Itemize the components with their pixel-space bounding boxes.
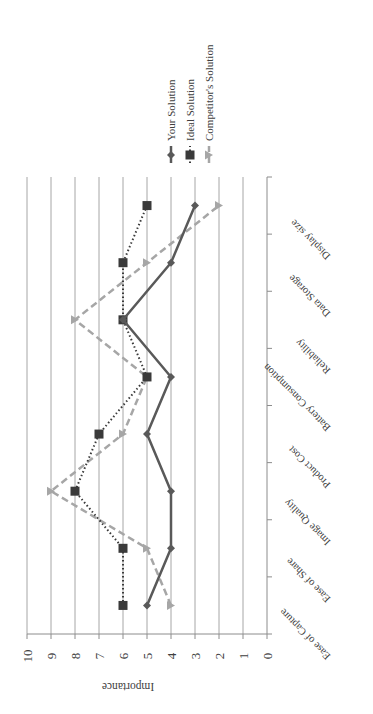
- category-label: Ease of Capture: [277, 606, 332, 661]
- diamond-marker: [143, 430, 151, 438]
- legend-label: Ideal Solution: [184, 78, 196, 141]
- axis-labels: 012345678910Ease of CaptureEase of Share…: [20, 217, 333, 693]
- category-label: Data Storage: [286, 272, 333, 319]
- series-line: [51, 206, 219, 606]
- value-tick-label: 10: [20, 650, 35, 663]
- series-your-solution: [119, 202, 199, 610]
- value-tick-label: 0: [260, 653, 275, 660]
- legend-item: Competitor's Solution: [203, 44, 215, 163]
- series-competitor-s-solution: [47, 201, 223, 610]
- square-marker: [71, 487, 80, 496]
- diamond-marker: [167, 487, 175, 495]
- value-tick-label: 1: [236, 653, 251, 660]
- value-tick-label: 5: [140, 653, 155, 660]
- category-label: Image Quality: [281, 497, 332, 548]
- series-layer: [47, 201, 223, 610]
- category-label: Display size: [288, 217, 333, 262]
- category-label: Product Cost: [286, 444, 332, 490]
- legend-label: Competitor's Solution: [203, 44, 215, 141]
- axis-title: Importance: [102, 680, 154, 693]
- value-tick-label: 4: [164, 652, 179, 659]
- square-marker: [119, 258, 128, 267]
- category-label: Ease of Share: [284, 556, 333, 605]
- series-line: [123, 206, 195, 606]
- value-tick-label: 8: [68, 653, 83, 660]
- value-tick-label: 7: [92, 652, 107, 659]
- diamond-marker: [143, 601, 151, 609]
- square-marker: [186, 151, 195, 160]
- square-marker: [95, 430, 104, 439]
- square-marker: [119, 601, 128, 610]
- category-label: Reliability: [293, 337, 333, 377]
- importance-line-chart: 012345678910Ease of CaptureEase of Share…: [0, 0, 373, 714]
- value-tick-label: 9: [44, 653, 59, 660]
- legend-item: Your Solution: [165, 79, 177, 163]
- square-marker: [119, 544, 128, 553]
- diamond-marker: [167, 151, 175, 159]
- value-tick-label: 6: [116, 652, 131, 659]
- gridlines: [27, 177, 243, 634]
- legend: Your SolutionIdeal SolutionCompetitor's …: [165, 44, 215, 163]
- legend-item: Ideal Solution: [184, 78, 196, 163]
- diamond-marker: [167, 544, 175, 552]
- chart-canvas: 012345678910Ease of CaptureEase of Share…: [0, 0, 373, 714]
- value-tick-label: 3: [188, 653, 203, 660]
- diamond-marker: [191, 202, 199, 210]
- series-ideal-solution: [71, 201, 152, 610]
- axes: [27, 177, 272, 639]
- square-marker: [143, 201, 152, 210]
- value-tick-label: 2: [212, 653, 227, 660]
- square-marker: [143, 372, 152, 381]
- legend-label: Your Solution: [165, 79, 177, 141]
